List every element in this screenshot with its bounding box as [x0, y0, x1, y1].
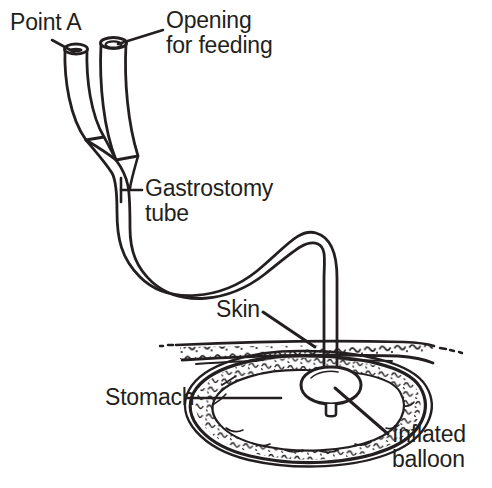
label-inflated-line1: Inflated: [392, 421, 466, 447]
diagram-canvas: [0, 0, 492, 488]
label-opening-line2: for feeding: [166, 32, 273, 58]
label-gastrostomy-line2: tube: [145, 200, 189, 226]
label-inflated-line2: balloon: [392, 446, 465, 472]
label-point-a: Point A: [10, 10, 82, 35]
leader-opening: [118, 30, 163, 44]
left-tube-port: [65, 44, 105, 140]
label-skin: Skin: [216, 297, 260, 322]
label-inflated-balloon: Inflatedballoon: [392, 422, 466, 472]
tube-shaft: [86, 137, 337, 352]
label-gastrostomy-tube: Gastrostomytube: [145, 176, 273, 226]
gastrostomy-diagram: Point A Openingfor feeding Gastrostomytu…: [0, 0, 492, 488]
label-gastrostomy-line1: Gastrostomy: [145, 175, 273, 201]
label-opening-line1: Opening: [166, 7, 252, 33]
label-stomach: Stomach: [105, 385, 194, 410]
label-opening-for-feeding: Openingfor feeding: [166, 8, 273, 58]
